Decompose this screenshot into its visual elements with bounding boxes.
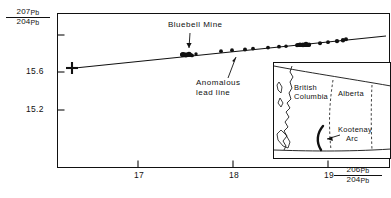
x-axis-label: 206Pb 204Pb (334, 166, 382, 184)
y-tick-marks (58, 35, 65, 110)
lead-isotope-figure: 207Pb 204Pb 206Pb 204Pb 15.6 15.2 17 18 … (0, 0, 391, 198)
map-label-kootenay: Kootenay (338, 125, 372, 134)
y-axis-denominator: 204Pb (6, 18, 50, 27)
x-tick-label-17: 17 (134, 170, 144, 180)
map-label-british-columbia: British Columbia (294, 83, 328, 101)
map-label-british: British (294, 83, 328, 92)
map-label-arc: Arc (346, 134, 372, 143)
anomalous-lead-line-annotation: Anomalous lead line (196, 78, 241, 98)
x-tick-label-19: 19 (324, 170, 334, 180)
anomalous-lead-line-annotation-line2: lead line (196, 88, 241, 98)
map-label-kootenay-arc: Kootenay Arc (338, 125, 372, 143)
x-axis-denominator: 204Pb (334, 176, 382, 185)
inset-map (274, 63, 391, 159)
map-label-columbia: Columbia (294, 92, 328, 101)
x-tick-marks (138, 161, 328, 168)
anomalous-lead-line-annotation-line1: Anomalous (196, 78, 241, 88)
bluebell-mine-annotation: Bluebell Mine (168, 20, 223, 30)
data-points-dense-cluster (295, 42, 311, 47)
x-tick-label-18: 18 (229, 170, 239, 180)
map-label-alberta: Alberta (338, 89, 364, 98)
data-point-cross-marker (66, 62, 78, 74)
y-axis-label: 207Pb 204Pb (6, 8, 50, 26)
y-tick-label-15-6: 15.6 (26, 66, 44, 76)
y-tick-label-15-2: 15.2 (26, 104, 44, 114)
bluebell-mine-cluster (180, 52, 198, 58)
